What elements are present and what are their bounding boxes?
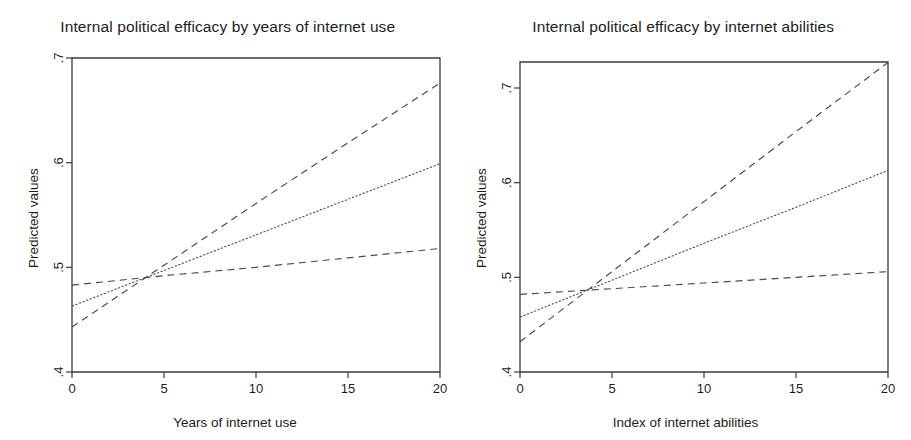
y-tick-label: .7 (51, 53, 66, 64)
series-line (72, 83, 440, 327)
panel-right-x-axis-label: Index of internet abilities (466, 415, 906, 430)
x-tick-label: 5 (160, 381, 167, 396)
y-tick-label: .4 (499, 367, 514, 378)
panel-right-plot: .4.5.6.705101520 (456, 0, 911, 440)
x-tick-label: 0 (68, 381, 75, 396)
x-tick-label: 20 (433, 381, 447, 396)
x-tick-label: 15 (341, 381, 355, 396)
y-tick-label: .4 (51, 367, 66, 378)
series-line (72, 248, 440, 285)
plot-frame (520, 62, 888, 372)
x-tick-label: 15 (788, 381, 802, 396)
x-tick-label: 5 (608, 381, 615, 396)
y-tick-label: .6 (51, 157, 66, 168)
x-tick-label: 10 (696, 381, 710, 396)
x-tick-label: 0 (516, 381, 523, 396)
two-panel-figure: Internal political efficacy by years of … (0, 0, 911, 440)
x-tick-label: 20 (880, 381, 894, 396)
panel-right: Internal political efficacy by internet … (456, 0, 911, 440)
y-tick-label: .5 (51, 262, 66, 273)
series-line (520, 62, 888, 341)
y-tick-label: .5 (499, 272, 514, 283)
x-tick-label: 10 (249, 381, 263, 396)
series-line (520, 170, 888, 317)
y-tick-label: .6 (499, 177, 514, 188)
plot-frame (72, 58, 440, 372)
y-tick-label: .7 (499, 83, 514, 94)
panel-left-x-axis-label: Years of internet use (15, 415, 455, 430)
panel-left: Internal political efficacy by years of … (0, 0, 456, 440)
series-line (520, 272, 888, 295)
panel-left-plot: .4.5.6.705101520 (0, 0, 456, 440)
series-line (72, 164, 440, 306)
